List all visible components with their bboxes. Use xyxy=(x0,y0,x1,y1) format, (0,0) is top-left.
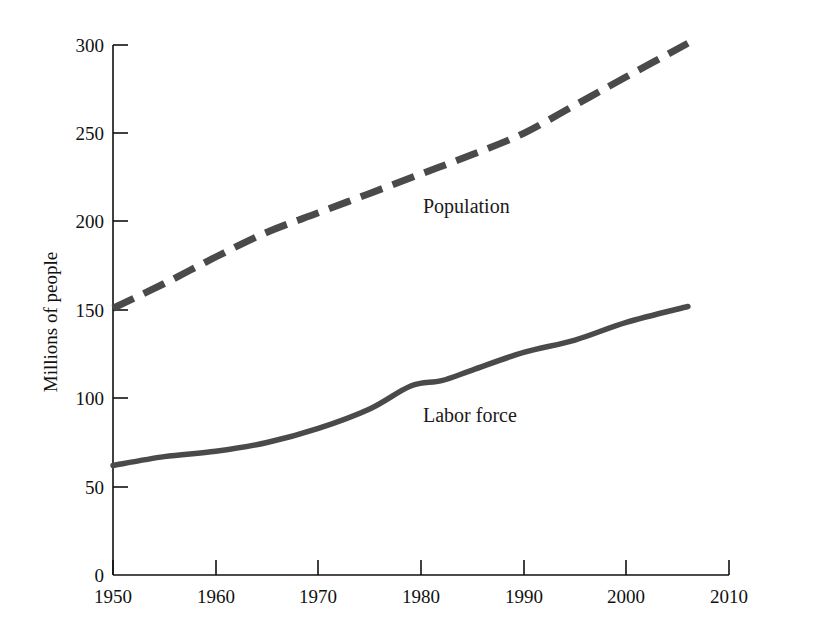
series-annotation-labor-force: Labor force xyxy=(423,404,517,426)
x-tick-label-1960: 1960 xyxy=(197,586,235,607)
y-tick-label-300: 300 xyxy=(76,35,105,56)
y-tick-label-0: 0 xyxy=(95,565,105,586)
x-tick-label-1980: 1980 xyxy=(402,586,440,607)
x-axis-tick-labels: 1950 1960 1970 1980 1990 2000 2010 xyxy=(94,586,748,607)
y-tick-label-100: 100 xyxy=(76,388,105,409)
x-axis-ticks xyxy=(113,560,729,575)
x-tick-label-2000: 2000 xyxy=(607,586,645,607)
x-tick-label-2010: 2010 xyxy=(710,586,748,607)
y-axis-tick-labels: 300 250 200 150 100 50 0 xyxy=(76,35,105,586)
series-line-population xyxy=(113,43,688,308)
y-axis-ticks xyxy=(113,45,128,487)
chart-container: 300 250 200 150 100 50 0 1950 1960 1970 … xyxy=(0,0,819,636)
x-tick-label-1970: 1970 xyxy=(299,586,337,607)
y-tick-label-200: 200 xyxy=(76,211,105,232)
line-chart: 300 250 200 150 100 50 0 1950 1960 1970 … xyxy=(0,0,819,636)
y-axis-title: Millions of people xyxy=(40,252,61,392)
y-tick-label-150: 150 xyxy=(76,300,105,321)
series-line-labor-force xyxy=(113,306,688,465)
series-annotation-population: Population xyxy=(423,195,510,218)
x-tick-label-1990: 1990 xyxy=(505,586,543,607)
y-tick-label-50: 50 xyxy=(85,477,104,498)
x-tick-label-1950: 1950 xyxy=(94,586,132,607)
y-tick-label-250: 250 xyxy=(76,123,105,144)
